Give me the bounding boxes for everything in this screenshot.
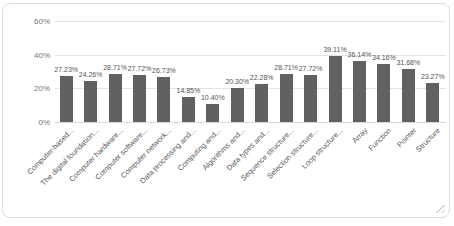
bar-value-label: 22.28% — [250, 74, 274, 81]
bar — [109, 74, 122, 122]
bar — [280, 74, 293, 122]
bar-chart: 60%40%20%0% 27.23%24.26%28.71%27.72%26.7… — [0, 0, 454, 226]
bar-value-label: 27.23% — [54, 66, 78, 73]
bar — [182, 97, 195, 122]
bar-value-label: 24.26% — [79, 71, 103, 78]
y-axis-tick-label: 60% — [22, 17, 50, 26]
x-axis-line — [55, 122, 446, 123]
bar — [133, 75, 146, 122]
y-axis-tick-label: 0% — [22, 118, 50, 127]
bar — [402, 69, 415, 122]
bar-value-label: 26.73% — [152, 67, 176, 74]
bar-value-label: 36.14% — [348, 51, 372, 58]
y-axis-tick-label: 20% — [22, 84, 50, 93]
bar-value-label: 27.72% — [128, 65, 152, 72]
bar-value-label: 14.85% — [177, 87, 201, 94]
bar — [157, 77, 170, 122]
bar-value-label: 28.71% — [274, 64, 298, 71]
bar — [60, 76, 73, 122]
bar — [353, 61, 366, 122]
bar-value-label: 39.11% — [323, 46, 346, 53]
resize-handle-icon — [436, 205, 445, 213]
gridline — [55, 21, 446, 22]
bar — [304, 75, 317, 122]
bar-value-label: 28.71% — [103, 64, 127, 71]
bar-value-label: 20.30% — [225, 78, 249, 85]
bar-value-label: 10.40% — [201, 94, 225, 101]
bar — [377, 64, 390, 122]
bar — [329, 56, 342, 122]
bar — [255, 84, 268, 122]
bar — [426, 83, 439, 122]
bar-value-label: 34.16% — [372, 54, 396, 61]
bar-value-label: 23.27% — [421, 73, 445, 80]
bar-value-label: 27.72% — [299, 65, 323, 72]
y-axis-tick-label: 40% — [22, 50, 50, 59]
bar — [231, 88, 244, 122]
bar-value-label: 31.68% — [396, 59, 420, 66]
bar — [206, 104, 219, 122]
bar — [84, 81, 97, 122]
